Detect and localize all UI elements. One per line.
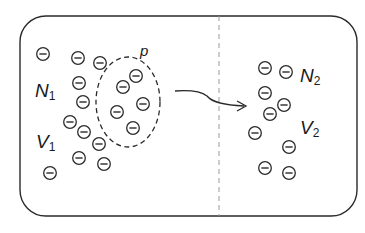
particle-right-icon (259, 87, 272, 100)
particle-left-icon (72, 52, 85, 65)
transfer-arrow (175, 91, 244, 106)
particle-left-icon (64, 116, 77, 129)
particle-left-icon (98, 158, 111, 171)
particle-left-icon (73, 77, 86, 90)
label-N1: N1 (35, 80, 56, 103)
particle-right-icon (259, 62, 272, 75)
particle-left-icon (73, 152, 86, 165)
label-V1: V1 (36, 131, 56, 154)
two-chamber-gas-diagram: N1 V1 N2 V2 p (0, 0, 365, 233)
particle-right-icon (278, 99, 291, 112)
particle-subset-icon (111, 106, 124, 119)
particle-subset-icon (130, 70, 143, 83)
label-p: p (139, 42, 148, 59)
particle-right-icon (264, 108, 277, 121)
particle-subset-icon (137, 98, 150, 111)
particle-right-icon (280, 66, 293, 79)
particle-subset-icon (117, 81, 130, 94)
particle-left-icon (94, 57, 107, 70)
subset-region-p (96, 57, 160, 147)
particle-subset-icon (127, 122, 140, 135)
particle-left-icon (77, 96, 90, 109)
particle-right-icon (249, 127, 262, 140)
particle-left-icon (37, 48, 50, 61)
particle-right-icon (259, 162, 272, 175)
particle-right-icon (283, 167, 296, 180)
particle-left-icon (78, 126, 91, 139)
particle-right-icon (283, 141, 296, 154)
label-N2: N2 (300, 65, 321, 88)
particle-left-icon (93, 138, 106, 151)
particle-left-icon (44, 167, 57, 180)
particles-group (37, 48, 296, 180)
label-V2: V2 (300, 117, 320, 140)
